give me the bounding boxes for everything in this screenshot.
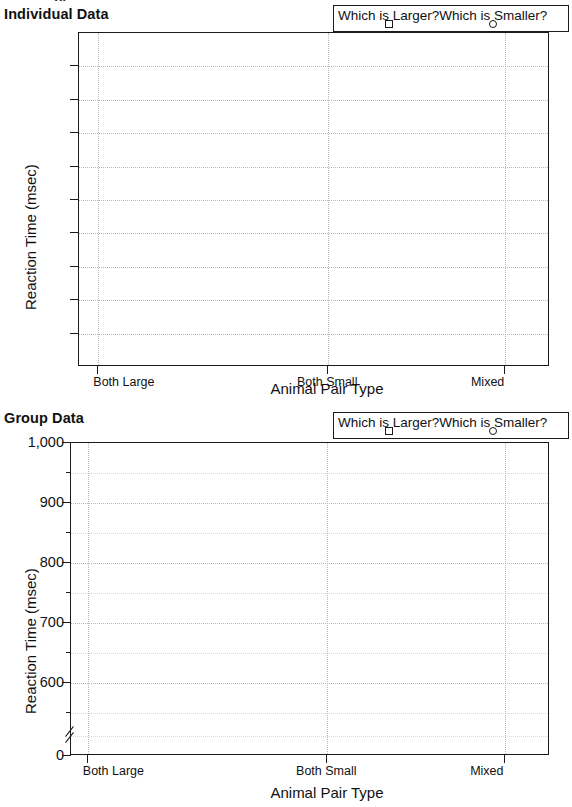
x-axis-label-mixed: Mixed	[470, 764, 503, 778]
legend-row: Which is Larger? Which is Smaller?	[334, 413, 568, 438]
gridline-horizontal	[71, 623, 548, 624]
square-marker-icon	[385, 20, 393, 28]
gridline-vertical	[505, 443, 506, 754]
y-axis-label-700: 700	[40, 614, 64, 630]
gridline-horizontal	[79, 334, 548, 335]
x-axis-tick	[326, 755, 327, 763]
y-axis-tick	[62, 755, 71, 756]
gridline-horizontal	[79, 267, 548, 268]
x-axis-label-both-small: Both Small	[296, 764, 356, 778]
x-axis-tick	[97, 366, 98, 374]
y-axis-tick	[62, 442, 71, 443]
x-axis-tick	[327, 366, 328, 374]
y-axis-tick-minor	[66, 472, 71, 473]
legend-entry-which-is-larger: Which is Larger?	[338, 415, 439, 430]
legend-row: Which is Larger? Which is Smaller?	[334, 6, 568, 31]
gridline-horizontal	[79, 133, 548, 134]
y-axis-tick	[62, 622, 71, 623]
x-axis-label-mixed: Mixed	[471, 375, 504, 389]
y-axis-tick	[62, 682, 71, 683]
gridline-vertical	[327, 443, 328, 754]
y-axis-break-icon	[61, 725, 77, 743]
cropped-text-artifact: jy	[54, 0, 67, 1]
circle-marker-icon	[489, 427, 497, 435]
plot-area-individual-data	[78, 32, 549, 366]
gridline-vertical	[98, 33, 99, 365]
x-axis-label-both-large: Both Large	[93, 375, 154, 389]
gridline-horizontal	[79, 300, 548, 301]
gridline-horizontal	[79, 233, 548, 234]
square-marker-icon	[385, 427, 393, 435]
y-axis-label-800: 800	[40, 554, 64, 570]
gridline-horizontal	[71, 503, 548, 504]
legend-entry-which-is-larger: Which is Larger?	[338, 8, 439, 23]
y-axis-tick	[70, 99, 79, 100]
circle-marker-icon	[489, 20, 497, 28]
gridline-horizontal-minor	[71, 473, 548, 474]
gridline-horizontal-minor	[71, 653, 548, 654]
y-axis-tick-minor	[66, 712, 71, 713]
legend-group-data: Which is Larger? Which is Smaller?	[333, 412, 569, 439]
gridline-horizontal-minor	[71, 533, 548, 534]
gridline-horizontal	[71, 563, 548, 564]
y-axis-tick	[70, 199, 79, 200]
y-axis-tick	[70, 132, 79, 133]
figure-page: jy Individual Data Which is Larger? Whic…	[0, 0, 572, 807]
y-axis-tick-minor	[66, 532, 71, 533]
gridline-horizontal	[79, 66, 548, 67]
y-axis-label-1000: 1,000	[28, 434, 64, 450]
y-axis-label-600: 600	[40, 674, 64, 690]
gridline-horizontal-minor	[71, 736, 548, 737]
y-axis-title-group: Reaction Time (msec)	[22, 568, 39, 714]
y-axis-label-900: 900	[40, 494, 64, 510]
y-axis-tick	[70, 65, 79, 66]
legend-entry-which-is-smaller: Which is Smaller?	[439, 415, 547, 430]
x-axis-tick	[504, 755, 505, 763]
gridline-horizontal	[79, 200, 548, 201]
gridline-vertical	[505, 33, 506, 365]
y-axis-tick	[70, 266, 79, 267]
gridline-horizontal	[71, 683, 548, 684]
y-axis-tick	[70, 333, 79, 334]
y-axis-tick	[62, 502, 71, 503]
x-axis-label-both-large: Both Large	[83, 764, 144, 778]
legend-individual-data: Which is Larger? Which is Smaller?	[333, 5, 569, 32]
y-axis-tick	[70, 299, 79, 300]
gridline-horizontal-minor	[71, 593, 548, 594]
gridline-horizontal	[79, 100, 548, 101]
y-axis-tick	[70, 166, 79, 167]
x-axis-label-both-small: Both Small	[297, 375, 357, 389]
y-axis-title-individual: Reaction Time (msec)	[22, 164, 39, 310]
panel-title-individual-data: Individual Data	[4, 6, 109, 22]
x-axis-tick	[504, 366, 505, 374]
gridline-horizontal	[79, 167, 548, 168]
gridline-vertical	[88, 443, 89, 754]
y-axis-tick-minor	[66, 652, 71, 653]
y-axis-tick	[62, 562, 71, 563]
legend-entry-which-is-smaller: Which is Smaller?	[439, 8, 547, 23]
x-axis-title-group: Animal Pair Type	[270, 784, 383, 801]
y-axis-tick-minor	[66, 592, 71, 593]
plot-area-group-data	[70, 442, 549, 755]
y-axis-tick	[70, 232, 79, 233]
gridline-vertical	[328, 33, 329, 365]
gridline-horizontal-minor	[71, 713, 548, 714]
panel-title-group-data: Group Data	[4, 410, 84, 426]
x-axis-tick	[87, 755, 88, 763]
